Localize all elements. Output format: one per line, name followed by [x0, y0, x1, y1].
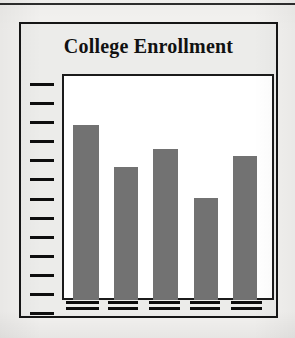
- bar-5: [233, 156, 257, 300]
- x-axis-label-glyph-line: [108, 301, 139, 304]
- x-axis-label-1: [66, 300, 99, 313]
- x-axis-label-glyph-line: [149, 307, 180, 310]
- bar-1: [73, 125, 99, 300]
- chart-title: College Enrollment: [21, 34, 276, 58]
- y-axis-tick: [30, 178, 54, 181]
- x-axis-label-4: [190, 300, 220, 313]
- y-axis-tick: [30, 159, 54, 162]
- x-axis-label-3: [149, 300, 180, 313]
- y-axis-tick: [30, 217, 54, 220]
- y-axis-tick: [30, 102, 54, 105]
- x-axis-label-row: [62, 300, 274, 318]
- plot-frame: [62, 74, 274, 300]
- y-axis-tick: [30, 312, 54, 315]
- x-axis-label-glyph-line: [66, 307, 99, 310]
- y-axis-tick: [30, 255, 54, 258]
- chart-figure-card: College Enrollment: [19, 22, 278, 318]
- bar-3: [153, 149, 178, 300]
- y-axis-tick: [30, 236, 54, 239]
- x-axis-label-5: [231, 300, 263, 313]
- y-axis-tick-column: [30, 83, 56, 315]
- x-axis-label-glyph-line: [190, 307, 220, 310]
- y-axis-tick: [30, 198, 54, 201]
- plot-area: [66, 78, 274, 300]
- x-axis-label-glyph-line: [108, 307, 139, 310]
- bar-4: [194, 198, 218, 300]
- x-axis-label-glyph-line: [231, 301, 263, 304]
- screenshot-canvas: College Enrollment: [0, 0, 295, 338]
- x-axis-label-glyph-line: [190, 301, 220, 304]
- y-axis-tick: [30, 293, 54, 296]
- y-axis-tick: [30, 140, 54, 143]
- y-axis-tick: [30, 121, 54, 124]
- x-axis-label-glyph-line: [149, 301, 180, 304]
- x-axis-label-glyph-line: [66, 301, 99, 304]
- x-axis-label-2: [108, 300, 139, 313]
- y-axis-tick: [30, 274, 54, 277]
- bar-2: [114, 167, 138, 300]
- x-axis-label-glyph-line: [231, 307, 263, 310]
- top-horizontal-rule: [0, 3, 295, 5]
- y-axis-tick: [30, 83, 54, 86]
